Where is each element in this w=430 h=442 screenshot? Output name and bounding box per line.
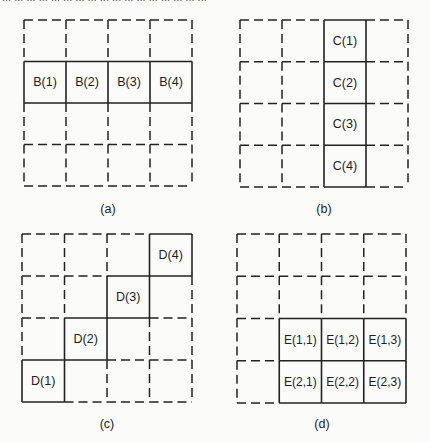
cell-label: E(1,2): [326, 334, 359, 346]
cell-label: D(1): [31, 375, 55, 388]
cell-label: D(3): [116, 291, 140, 304]
panel-c-diagonal-partition: D(1)D(2)D(3)D(4): [22, 234, 192, 402]
cropped-text-line: ... ... ... ... ... ... ... ... ... ... …: [0, 0, 430, 4]
cell-label: E(1,3): [369, 334, 402, 346]
cell-label: C(1): [333, 35, 357, 48]
cropped-caption-text: ... ... ... ... ... ... ... ... ... ... …: [2, 0, 207, 3]
cell-label: E(2,1): [284, 376, 317, 388]
cell-label: C(2): [333, 76, 357, 89]
cell-label: D(2): [74, 333, 98, 346]
panel-a-row-partition: B(1)B(2)B(3)B(4): [24, 20, 192, 186]
panel-b-caption: (b): [316, 202, 331, 216]
grid-lines: [240, 20, 408, 187]
cell-label: B(4): [159, 76, 183, 89]
grid-lines: [24, 20, 192, 186]
cell-label: E(2,2): [326, 376, 359, 388]
cell-label: C(4): [333, 160, 357, 173]
cell-label: E(1,1): [284, 334, 317, 346]
panel-a-caption: (a): [100, 202, 115, 216]
cell-label: B(2): [75, 76, 99, 89]
cell-label: B(1): [33, 76, 57, 89]
panel-d-block-partition: E(1,1)E(1,2)E(1,3)E(2,1)E(2,2)E(2,3): [237, 234, 406, 403]
cell-label: B(3): [117, 76, 141, 89]
panel-d-caption: (d): [314, 417, 329, 431]
cell-label: E(2,3): [369, 376, 402, 388]
cell-label: D(4): [159, 249, 183, 262]
cell-label: C(3): [333, 118, 357, 131]
panel-c-caption: (c): [100, 417, 115, 431]
panel-b-column-partition: C(1)C(2)C(3)C(4): [240, 20, 408, 187]
